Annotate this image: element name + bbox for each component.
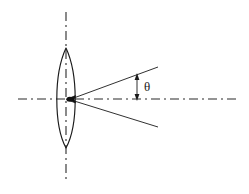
optics-diagram-svg: θ [0, 0, 249, 194]
focal-point-core [66, 97, 73, 102]
optics-diagram-canvas: θ [0, 0, 249, 194]
theta-label: θ [144, 79, 150, 94]
theta-dimension-arrow [135, 73, 140, 101]
lower-divergent-ray [71, 100, 158, 127]
theta-arrow-head-down [135, 94, 140, 101]
